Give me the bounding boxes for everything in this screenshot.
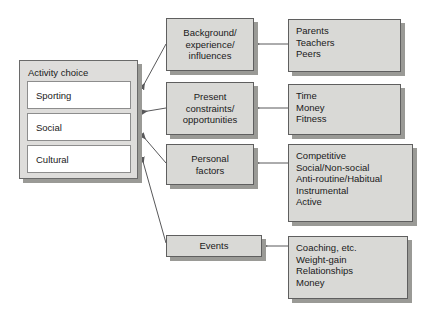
factor-box-events[interactable]: Events	[166, 235, 262, 257]
factor-box-present-constraints-text: Present constraints/ opportunities	[183, 91, 237, 126]
option-cultural[interactable]: Cultural	[27, 145, 131, 173]
detail-box-background[interactable]: Parents Teachers Peers	[288, 19, 401, 72]
detail-box-background-text: Parents Teachers Peers	[296, 25, 400, 60]
option-social[interactable]: Social	[27, 113, 131, 141]
factor-box-present-constraints[interactable]: Present constraints/ opportunities	[166, 82, 254, 135]
detail-box-present-constraints-text: Time Money Fitness	[296, 90, 400, 125]
detail-box-personal-factors-text: Competitive Social/Non-social Anti-routi…	[296, 150, 412, 208]
option-sporting[interactable]: Sporting	[27, 81, 131, 109]
factor-box-events-text: Events	[199, 240, 228, 252]
diagram-canvas: Activity choice Sporting Social Cultural…	[0, 0, 427, 316]
connector-background-to-activity	[142, 44, 166, 88]
detail-box-events-text: Coaching, etc. Weight-gain Relationships…	[296, 242, 407, 288]
option-social-label: Social	[36, 122, 62, 133]
option-cultural-label: Cultural	[36, 154, 69, 165]
connector-personal-to-activity	[142, 135, 166, 163]
option-sporting-label: Sporting	[36, 90, 71, 101]
detail-box-personal-factors[interactable]: Competitive Social/Non-social Anti-routi…	[288, 144, 413, 222]
detail-box-events[interactable]: Coaching, etc. Weight-gain Relationships…	[288, 236, 408, 299]
connector-events-to-activity	[142, 158, 166, 243]
factor-box-personal-factors-text: Personal factors	[191, 153, 229, 176]
activity-choice-title: Activity choice	[28, 67, 88, 78]
factor-box-background[interactable]: Background/ experience/ influences	[166, 18, 254, 71]
factor-box-background-text: Background/ experience/ influences	[183, 27, 236, 62]
activity-choice-panel: Activity choice Sporting Social Cultural	[19, 60, 138, 179]
factor-box-personal-factors[interactable]: Personal factors	[166, 144, 254, 185]
connector-present-to-activity	[142, 108, 166, 112]
detail-box-present-constraints[interactable]: Time Money Fitness	[288, 84, 401, 135]
